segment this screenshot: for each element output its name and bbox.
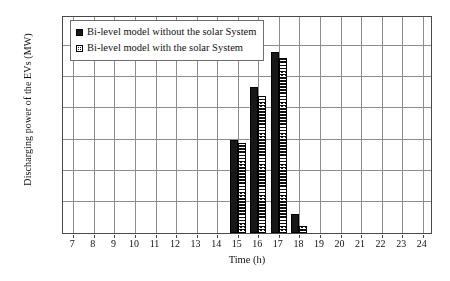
x-tick-label: 12 [170,238,180,249]
gridline-vertical [341,17,342,233]
legend-label-series-1: Bi-level model with the solar System [87,42,243,54]
x-tick-label: 10 [129,238,139,249]
bar-series-0-cat-15 [230,140,238,233]
bar-series-0-cat-16 [250,87,258,233]
gridline-horizontal [63,170,431,171]
bar-series-1-cat-15 [238,143,246,233]
chart-legend: Bi-level model without the solar System … [70,20,264,61]
x-tick-label: 7 [70,238,75,249]
bar-series-1-cat-18 [299,226,307,233]
x-tick-label: 16 [252,238,262,249]
legend-swatch-icon-series-0 [76,29,83,36]
gridline-vertical [402,17,403,233]
bar-series-1-cat-17 [279,58,287,233]
bar-series-0-cat-18 [291,214,299,233]
x-tick-label: 18 [293,238,303,249]
bar-series-1-cat-16 [258,96,266,233]
x-tick-label: 20 [335,238,345,249]
legend-label-series-0: Bi-level model without the solar System [87,26,256,38]
gridline-vertical [320,17,321,233]
x-tick-label: 19 [314,238,324,249]
gridline-vertical [299,17,300,233]
x-tick-label: 9 [111,238,116,249]
gridline-vertical [361,17,362,233]
x-tick-label: 23 [396,238,406,249]
gridline-horizontal [63,76,431,77]
x-tick-label: 15 [232,238,242,249]
x-tick-label: 11 [150,238,160,249]
x-tick-label: 24 [417,238,427,249]
bar-series-0-cat-17 [271,52,279,233]
x-tick-label: 14 [211,238,221,249]
legend-swatch-icon-series-1 [76,45,83,52]
legend-item-series-0: Bi-level model without the solar System [76,24,256,40]
x-axis-label: Time (h) [62,254,432,265]
y-axis-tick-labels: 00.511.522.533.5 [0,0,56,281]
x-tick-label: 22 [376,238,386,249]
x-tick-label: 21 [355,238,365,249]
x-axis-tick-labels: 789101112131415161718192021222324 [62,238,432,252]
x-tick-label: 13 [191,238,201,249]
chart-figure: Discharging power of the EVs (MW) 00.511… [0,0,450,281]
gridline-horizontal [63,139,431,140]
legend-item-series-1: Bi-level model with the solar System [76,40,256,56]
gridline-horizontal [63,107,431,108]
gridline-vertical [423,17,424,233]
gridline-horizontal [63,201,431,202]
x-tick-label: 8 [90,238,95,249]
x-tick-label: 17 [273,238,283,249]
gridline-vertical [382,17,383,233]
